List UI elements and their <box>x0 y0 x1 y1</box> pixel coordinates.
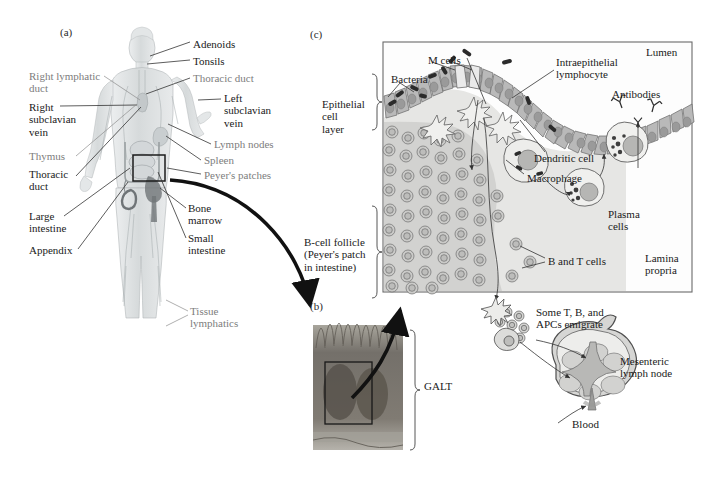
label-blood: Blood <box>572 418 599 430</box>
label-intraepithelial-lymphocyte: Intraepithelial lymphocyte <box>556 56 618 81</box>
label-bone-marrow: Bone marrow <box>188 202 222 227</box>
label-lamina-propria: Lamina propria <box>645 252 679 277</box>
peyers-patch-micrograph <box>313 310 420 450</box>
label-bacteria: Bacteria <box>391 73 428 85</box>
label-lumen: Lumen <box>646 46 677 58</box>
panel-b-tag: (b) <box>310 300 323 312</box>
label-tissue-lymphatics: Tissue lymphatics <box>190 305 238 330</box>
label-lymph-nodes: Lymph nodes <box>214 138 274 150</box>
label-galt: GALT <box>424 380 452 392</box>
label-macrophage: Macrophage <box>527 172 582 184</box>
label-left-subclavian-vein: Left subclavian vein <box>224 92 271 129</box>
epithelial-bracket <box>372 74 382 130</box>
label-emigrate: Some T, B, and APCs emigrate <box>536 306 604 331</box>
label-appendix: Appendix <box>29 244 72 256</box>
label-tonsils: Tonsils <box>193 55 225 67</box>
label-large-intestine: Large intestine <box>29 210 66 235</box>
label-mesenteric-lymph-node: Mesenteric lymph node <box>620 355 672 380</box>
label-antibodies: Antibodies <box>612 88 660 100</box>
label-b-cell-follicle: B-cell follicle (Peyer's patch in intest… <box>304 236 366 273</box>
follicle-bracket <box>372 206 382 298</box>
label-small-intestine: Small intestine <box>188 232 225 257</box>
label-right-lymphatic-duct: Right lymphatic duct <box>29 70 100 95</box>
label-dendritic-cell: Dendritic cell <box>534 152 594 164</box>
panel-c-tag: (c) <box>310 28 322 40</box>
label-b-and-t-cells: B and T cells <box>548 255 606 267</box>
label-thoracic-duct-right: Thoracic duct <box>193 72 254 84</box>
label-epithelial-cell-layer: Epithelial cell layer <box>322 98 365 135</box>
emigration-apc-cell <box>494 328 519 350</box>
panel-a-tag: (a) <box>60 26 72 38</box>
label-plasma-cells: Plasma cells <box>608 208 640 233</box>
label-peyers-patches: Peyer's patches <box>204 169 271 181</box>
figure-root: (a) (b) (c) Adenoids Tonsils Thoracic du… <box>0 0 704 480</box>
label-m-cells: M cells <box>428 54 461 66</box>
label-spleen: Spleen <box>204 154 234 166</box>
label-right-subclavian-vein: Right subclavian vein <box>29 101 76 138</box>
label-adenoids: Adenoids <box>193 38 235 50</box>
label-thoracic-duct-left: Thoracic duct <box>29 168 68 193</box>
label-thymus: Thymus <box>29 150 65 162</box>
